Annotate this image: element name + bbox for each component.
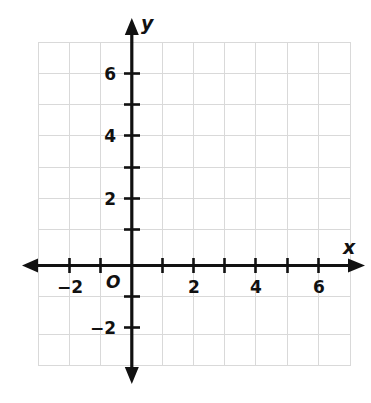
x-tick-label-4: 4 bbox=[235, 279, 277, 296]
y-tick-label-neg2: −2 bbox=[80, 320, 116, 337]
graph-canvas bbox=[0, 0, 371, 403]
coordinate-plane-graph: x y O −2 2 4 6 6 4 2 −2 bbox=[0, 0, 371, 403]
x-axis-label: x bbox=[343, 238, 355, 257]
x-tick-label-6: 6 bbox=[298, 279, 340, 296]
grid-vertical-lines bbox=[39, 42, 351, 366]
origin-label: O bbox=[106, 274, 120, 291]
y-tick-label-2: 2 bbox=[90, 191, 116, 208]
grid-horizontal-lines bbox=[39, 43, 351, 366]
y-axis-arrow-up bbox=[125, 18, 139, 35]
y-tick-label-4: 4 bbox=[90, 128, 116, 145]
y-axis-label: y bbox=[141, 14, 153, 33]
y-tick-label-6: 6 bbox=[90, 66, 116, 83]
x-tick-label-2: 2 bbox=[173, 279, 215, 296]
x-axis-arrow-right bbox=[348, 259, 365, 273]
x-tick-label-neg2: −2 bbox=[49, 279, 91, 296]
y-axis-arrow-down bbox=[125, 367, 139, 384]
x-axis-arrow-left bbox=[22, 259, 38, 273]
